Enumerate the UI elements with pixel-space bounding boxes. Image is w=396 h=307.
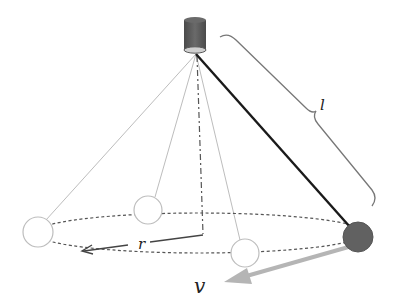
ghost-bob-back <box>134 196 162 224</box>
pendulum-bob <box>343 222 373 252</box>
ghost-bob-left <box>23 217 53 247</box>
conical-pendulum-diagram: r v l <box>0 0 396 307</box>
pendulum-string <box>196 54 350 227</box>
radius-label: r <box>138 235 146 253</box>
ghost-bob-front <box>231 239 259 267</box>
velocity-label: v <box>194 274 206 298</box>
length-bracket <box>220 35 375 206</box>
vertical-axis <box>197 56 203 234</box>
pivot-mount <box>184 17 206 53</box>
orbit-path <box>35 213 365 253</box>
length-label: l <box>320 96 325 114</box>
ghost-string-left <box>46 54 196 220</box>
ghost-string-back <box>155 54 196 197</box>
